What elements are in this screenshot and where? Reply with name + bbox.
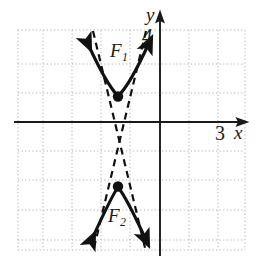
y-axis-tick-label-4: 4 <box>142 26 152 46</box>
y-axis-label: y <box>146 5 154 24</box>
x-axis-label: x <box>234 123 242 142</box>
hyperbola-figure: y x 3 4 F1 F2 <box>0 0 263 266</box>
focus-label-f1-subscript: 1 <box>122 51 128 64</box>
focus-label-f2-letter: F <box>108 205 120 226</box>
focus-point-lower <box>113 181 123 191</box>
focus-label-f2-subscript: 2 <box>120 216 126 229</box>
axes <box>14 16 243 256</box>
focus-label-f1: F1 <box>110 41 128 63</box>
grid-lines <box>18 30 245 250</box>
focus-label-f2: F2 <box>108 206 126 228</box>
x-axis-tick-label-3: 3 <box>215 123 225 143</box>
focus-point-upper <box>113 91 123 101</box>
focus-label-f1-letter: F <box>110 40 122 61</box>
